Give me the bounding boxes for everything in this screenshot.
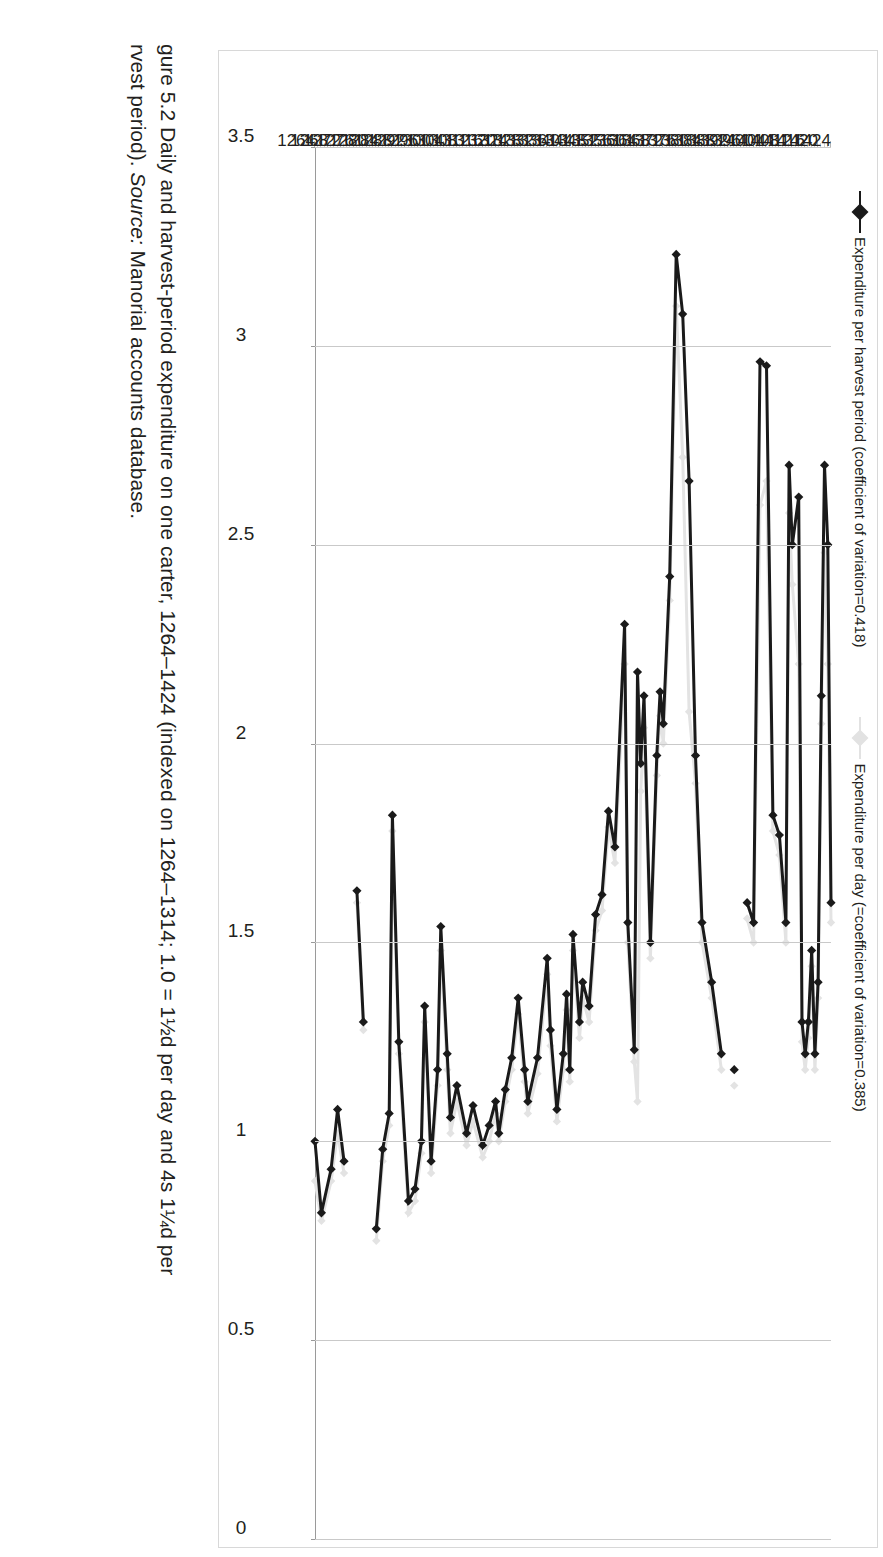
data-point-marker [317, 1217, 325, 1225]
data-point-marker [394, 1037, 403, 1046]
data-point-marker [388, 811, 397, 820]
data-point-marker [553, 1117, 561, 1125]
caption-line-2-post: Manorial accounts database. [127, 245, 150, 519]
value-gridline [315, 545, 831, 546]
data-point-marker [685, 708, 693, 716]
plot-area [315, 147, 831, 1539]
data-point-marker [359, 1017, 368, 1026]
data-point-marker [678, 309, 687, 318]
data-point-marker [646, 954, 654, 962]
data-point-marker [633, 667, 642, 676]
value-axis-tick-label: 3.5 [228, 125, 254, 147]
data-point-marker [597, 890, 606, 899]
value-gridline [315, 346, 831, 347]
data-point-marker [514, 994, 523, 1003]
data-point-marker [807, 946, 816, 955]
data-point-marker [585, 1018, 593, 1026]
value-axis-tick-label: 1.5 [228, 920, 254, 942]
legend-marker-diamond-dark-icon [855, 191, 867, 233]
value-axis-tick-label: 1 [236, 1119, 247, 1141]
data-point-marker [604, 807, 613, 816]
data-point-marker [427, 1169, 435, 1177]
caption-line-1: gure 5.2 Daily and harvest-period expend… [153, 44, 183, 1546]
data-point-marker [652, 751, 661, 760]
data-point-marker [543, 954, 552, 963]
caption-line-2-pre: rvest period). [127, 44, 150, 172]
value-gridline [315, 1539, 831, 1540]
value-axis-tick-label: 0 [236, 1517, 247, 1539]
data-point-marker [372, 1224, 381, 1233]
data-point-marker [566, 1077, 574, 1085]
data-point-marker [524, 1109, 532, 1117]
data-point-marker [678, 453, 686, 461]
data-point-marker [768, 811, 777, 820]
data-point-marker [443, 1049, 452, 1058]
data-point-marker [565, 1065, 574, 1074]
value-axis-tick-label: 2.5 [228, 523, 254, 545]
data-point-marker [385, 1109, 394, 1118]
data-point-marker [620, 620, 629, 629]
data-point-marker [827, 918, 835, 926]
data-point-marker [672, 250, 681, 259]
value-gridline [315, 942, 831, 943]
data-point-marker [468, 1101, 477, 1110]
data-point-marker [817, 691, 826, 700]
value-axis-tick-label: 3 [236, 324, 247, 346]
chart-legend: Expenditure per harvest period (coeffici… [852, 191, 869, 1112]
data-point-marker [685, 476, 694, 485]
data-point-marker [826, 898, 835, 907]
value-axis-tick-label: 0.5 [228, 1318, 254, 1340]
value-axis-tick-label: 2 [236, 722, 247, 744]
data-point-marker [730, 1081, 738, 1089]
data-point-marker [420, 1001, 429, 1010]
legend-label-harvest-period: Expenditure per harvest period (coeffici… [852, 237, 869, 647]
data-point-marker [811, 1065, 819, 1073]
data-point-marker [743, 898, 752, 907]
data-point-marker [462, 1141, 470, 1149]
data-point-marker [452, 1081, 461, 1090]
figure-stage: Expenditure per harvest period (coeffici… [0, 0, 883, 1557]
value-gridline [315, 744, 831, 745]
data-point-marker [333, 1105, 342, 1114]
data-point-marker [427, 1157, 436, 1166]
legend-label-per-day: Expenditure per day (=coefficient of var… [852, 763, 869, 1111]
data-point-marker [717, 1065, 725, 1073]
data-point-marker [575, 1017, 584, 1026]
data-point-marker [479, 1153, 487, 1161]
data-point-marker [781, 918, 790, 927]
data-point-marker [730, 1065, 739, 1074]
data-point-marker [359, 1026, 367, 1034]
data-point-marker [794, 492, 803, 501]
data-point-marker [810, 1049, 819, 1058]
category-axis-labels: 1264126812721276128012841288129212961300… [315, 51, 831, 147]
data-point-marker [575, 1034, 583, 1042]
figure-caption: gure 5.2 Daily and harvest-period expend… [123, 56, 183, 1546]
chart-frame: Expenditure per harvest period (coeffici… [218, 50, 878, 1548]
value-gridline [315, 147, 831, 148]
data-point-marker [623, 918, 632, 927]
data-point-marker [784, 461, 793, 470]
legend-marker-diamond-light-icon [855, 717, 867, 759]
value-gridline [315, 1340, 831, 1341]
value-axis-labels: 00.511.522.533.5 [241, 147, 311, 1539]
legend-item-per-day: Expenditure per day (=coefficient of var… [852, 717, 869, 1111]
data-point-marker [340, 1169, 348, 1177]
legend-item-harvest-period: Expenditure per harvest period (coeffici… [852, 191, 869, 647]
data-point-marker [562, 990, 571, 999]
data-point-marker [520, 1065, 529, 1074]
data-point-marker [568, 930, 577, 939]
data-point-marker [546, 1025, 555, 1034]
data-point-marker [436, 922, 445, 931]
value-gridline [315, 1141, 831, 1142]
series-line [315, 254, 831, 1228]
series-layer [315, 147, 831, 1539]
data-point-marker [433, 1065, 442, 1074]
series-harvest-period [310, 250, 835, 1234]
data-point-marker [801, 1065, 809, 1073]
data-point-marker [578, 978, 587, 987]
data-point-marker [446, 1129, 454, 1137]
data-point-marker [352, 886, 361, 895]
data-point-marker [633, 1097, 641, 1105]
caption-source-label: Source: [127, 172, 150, 244]
data-point-marker [665, 572, 674, 581]
